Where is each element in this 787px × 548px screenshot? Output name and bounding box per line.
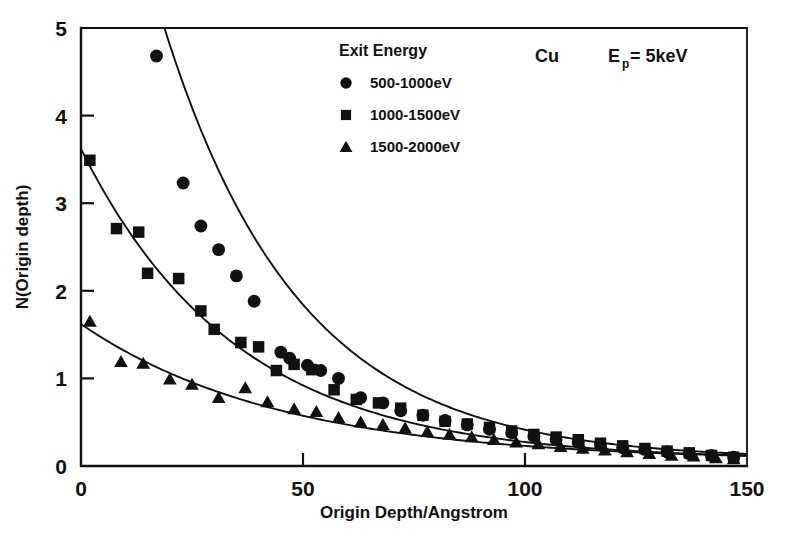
marker-square [341,110,351,120]
legend-label-0: 500-1000eV [370,74,452,91]
marker-circle [340,77,351,88]
marker-circle [212,243,225,256]
marker-square [306,364,317,375]
legend-title: Exit Energy [339,42,427,59]
x-tick-label: 100 [507,477,542,500]
marker-circle [332,372,345,385]
marker-square [506,425,517,436]
y-tick-label: 3 [55,192,67,215]
marker-circle [177,177,190,190]
marker-square [235,337,246,348]
legend-label-2: 1500-2000eV [370,138,460,155]
marker-circle [248,295,261,308]
material-label: Cu [535,46,559,66]
y-tick-label: 4 [55,105,67,128]
x-tick-label: 150 [729,477,764,500]
marker-square [484,422,495,433]
marker-square [111,223,122,234]
y-tick-label: 1 [55,367,67,390]
legend-label-1: 1000-1500eV [370,106,460,123]
x-axis-title: Origin Depth/Angstrom [320,503,508,522]
marker-square [271,365,282,376]
marker-square [173,273,184,284]
marker-square [208,324,219,335]
energy-subscript: p [622,57,629,71]
energy-value: = 5keV [630,46,688,66]
marker-square [439,416,450,427]
marker-square [288,359,299,370]
marker-circle [194,220,207,233]
marker-square [133,226,144,237]
marker-square [351,394,362,405]
marker-square [417,409,428,420]
x-tick-label: 50 [291,477,314,500]
marker-circle [230,269,243,282]
marker-square [84,155,95,166]
scatter-plot: 012345 050100150 Origin Depth/Angstrom N… [0,0,787,548]
marker-square [142,268,153,279]
y-tick-label: 0 [55,455,67,478]
marker-square [373,397,384,408]
y-tick-label: 2 [55,280,67,303]
marker-square [395,402,406,413]
marker-square [462,418,473,429]
marker-circle [150,50,163,63]
x-tick-label: 0 [75,477,87,500]
y-tick-label: 5 [55,17,67,40]
marker-square [253,341,264,352]
marker-square [328,384,339,395]
marker-square [195,305,206,316]
chart-figure: 012345 050100150 Origin Depth/Angstrom N… [0,0,787,548]
y-axis-title: N(Origin depth) [13,185,32,310]
energy-symbol: E [608,46,620,66]
